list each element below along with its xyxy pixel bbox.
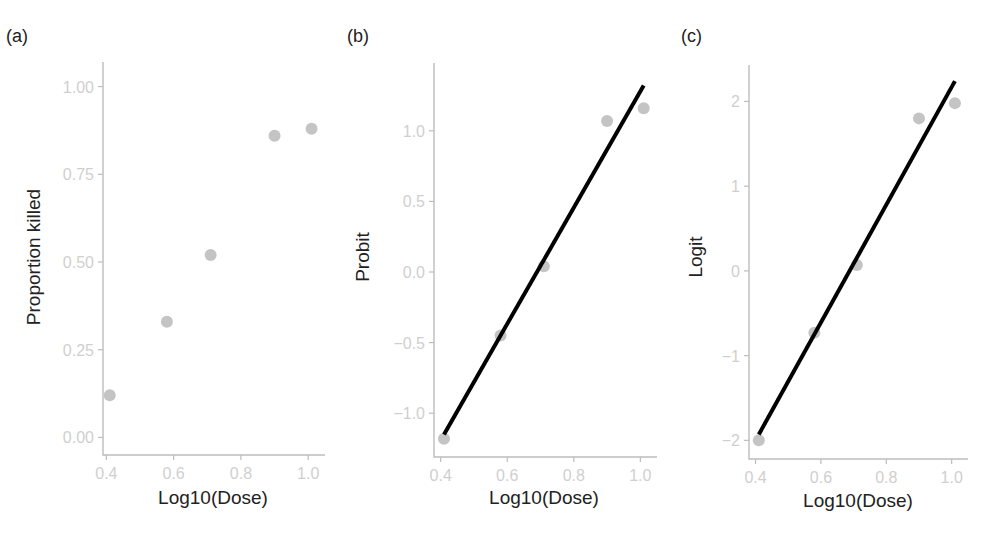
y-tick-label: 1.00	[63, 79, 94, 96]
x-tick-label: 0.6	[810, 469, 832, 486]
panel-b-xlabel: Log10(Dose)	[489, 487, 599, 508]
x-tick-label: 0.8	[875, 469, 897, 486]
x-tick-label: 1.0	[297, 465, 319, 482]
x-tick-label: 1.0	[629, 467, 651, 484]
panel-b-label: (b)	[347, 26, 369, 46]
y-tick-label: 0.5	[403, 193, 425, 210]
x-tick-label: 0.8	[230, 465, 252, 482]
panel-c-label: (c)	[681, 26, 702, 46]
panel-b-plot: −1.0−0.50.00.51.00.40.60.81.0	[393, 63, 657, 484]
data-point	[949, 97, 961, 109]
panel-b-ylabel: Probit	[352, 231, 373, 281]
x-tick-label: 0.4	[744, 469, 766, 486]
x-tick-label: 0.6	[496, 467, 518, 484]
x-tick-label: 0.4	[95, 465, 117, 482]
panel-c-xlabel: Log10(Dose)	[803, 490, 913, 511]
data-point	[638, 102, 650, 114]
data-point	[753, 434, 765, 446]
y-tick-label: −1.0	[393, 405, 425, 422]
y-tick-label: 0.0	[403, 264, 425, 281]
fit-line	[444, 86, 644, 435]
data-point	[205, 249, 217, 261]
x-tick-label: 0.8	[563, 467, 585, 484]
panel-c: (c) −2−10120.40.60.81.0 Log10(Dose) Logi…	[681, 26, 968, 511]
data-point	[104, 389, 116, 401]
y-tick-label: 0.75	[63, 166, 94, 183]
y-tick-label: 0.50	[63, 254, 94, 271]
panel-a-xlabel: Log10(Dose)	[158, 487, 268, 508]
panel-a-ylabel: Proportion killed	[23, 189, 44, 325]
x-tick-label: 1.0	[941, 469, 963, 486]
y-tick-label: 0.25	[63, 342, 94, 359]
data-point	[306, 123, 318, 135]
fit-line	[759, 81, 955, 434]
y-tick-label: 1.0	[403, 123, 425, 140]
y-tick-label: 0.00	[63, 429, 94, 446]
x-tick-label: 0.6	[163, 465, 185, 482]
y-tick-label: 2	[731, 93, 740, 110]
y-tick-label: −0.5	[393, 335, 425, 352]
y-tick-label: 1	[731, 178, 740, 195]
panel-b: (b) −1.0−0.50.00.51.00.40.60.81.0 Log10(…	[347, 26, 657, 508]
data-point	[438, 433, 450, 445]
data-point	[161, 316, 173, 328]
panel-c-plot: −2−10120.40.60.81.0	[722, 65, 968, 486]
panel-a-label: (a)	[6, 26, 28, 46]
data-point	[913, 112, 925, 124]
y-tick-label: −1	[722, 348, 740, 365]
y-tick-label: 0	[731, 263, 740, 280]
figure: (a) 0.000.250.500.751.000.40.60.81.0 Log…	[0, 0, 990, 537]
panel-a-plot: 0.000.250.500.751.000.40.60.81.0	[63, 62, 325, 482]
panel-c-ylabel: Logit	[685, 236, 706, 278]
x-tick-label: 0.4	[430, 467, 452, 484]
y-tick-label: −2	[722, 432, 740, 449]
panel-a: (a) 0.000.250.500.751.000.40.60.81.0 Log…	[6, 26, 325, 508]
data-point	[269, 130, 281, 142]
data-point	[601, 115, 613, 127]
